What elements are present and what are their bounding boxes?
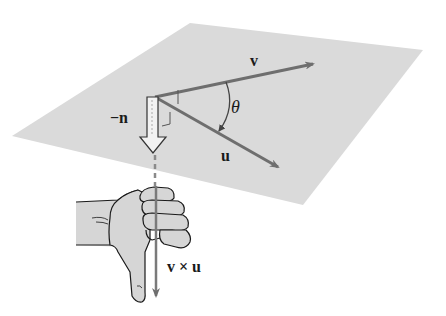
label-theta: θ bbox=[231, 98, 240, 116]
label-v-cross-u: v × u bbox=[167, 259, 201, 275]
label-u: u bbox=[221, 148, 230, 164]
label-neg-n: −n bbox=[110, 110, 128, 126]
plane bbox=[12, 23, 423, 205]
right-hand-thumb-down-icon bbox=[76, 187, 191, 302]
label-v: v bbox=[250, 53, 258, 69]
